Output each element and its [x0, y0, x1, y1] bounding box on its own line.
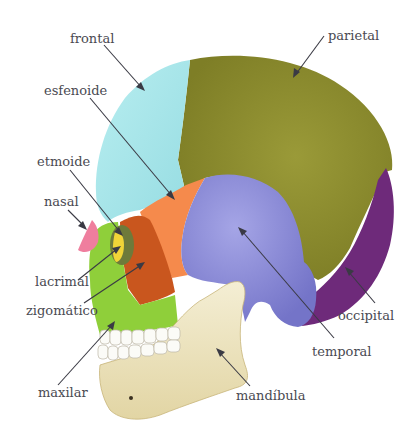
label-mandibula: mandíbula: [236, 388, 306, 403]
label-zigomatico: zigomático: [26, 303, 98, 318]
label-lacrimal: lacrimal: [35, 274, 89, 289]
label-occipital: occipital: [338, 308, 394, 323]
label-etmoide: etmoide: [37, 154, 91, 169]
label-temporal: temporal: [312, 344, 372, 359]
label-frontal: frontal: [70, 31, 114, 46]
skull-diagram: frontal parietal esfenoide etmoide nasal…: [0, 0, 419, 446]
label-maxilar: maxilar: [38, 385, 88, 400]
mental-foramen: [129, 396, 133, 400]
label-nasal: nasal: [44, 194, 79, 209]
label-parietal: parietal: [328, 28, 379, 43]
label-esfenoide: esfenoide: [44, 83, 108, 98]
